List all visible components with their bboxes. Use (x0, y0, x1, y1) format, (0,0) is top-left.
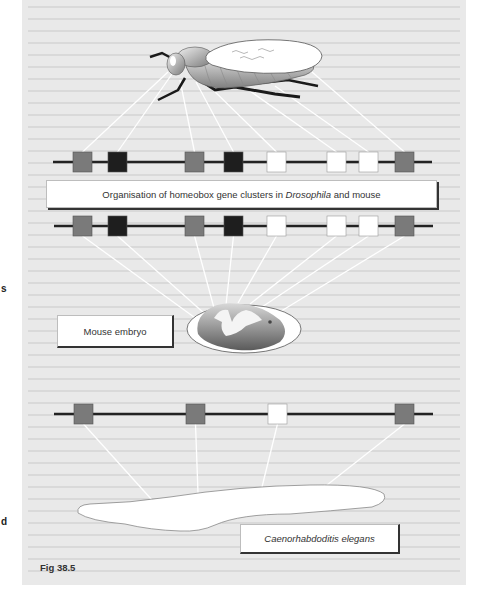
connector-line (250, 236, 337, 304)
gene-box-gray (185, 216, 204, 236)
connector-line (262, 236, 369, 307)
mouse-gene-cluster (54, 216, 433, 236)
c-elegans-label-box: Caenorhabdoditis elegans (240, 524, 400, 554)
gene-box-white (267, 152, 286, 172)
gene-box-gray (73, 152, 92, 172)
c-elegans-label: Caenorhabdoditis elegans (264, 533, 374, 544)
connector-line (196, 424, 199, 493)
gene-box-white (327, 152, 346, 172)
connector-line (238, 236, 277, 303)
gene-box-black (108, 216, 127, 236)
connector-line (84, 424, 153, 500)
gene-box-white (359, 152, 378, 172)
mouse-embryo-illustration (187, 303, 301, 353)
figure-caption: Fig 38.5 (40, 562, 75, 573)
gene-box-white (267, 216, 286, 236)
drosophila-gene-cluster (53, 152, 432, 172)
connector-line (312, 72, 405, 152)
gene-box-white (268, 404, 287, 424)
connector-line (118, 74, 173, 152)
homeobox-diagram (0, 0, 489, 592)
connector-line (195, 236, 215, 308)
connector-line (278, 236, 405, 313)
diagram-title-box: Organisation of homeobox gene clusters i… (46, 180, 437, 208)
mouse-embryo-label: Mouse embryo (84, 326, 147, 337)
c-elegans-gene-cluster (54, 404, 433, 424)
mouse-embryo-label-box: Mouse embryo (57, 315, 174, 348)
fly-wing (206, 40, 322, 74)
connector-line (83, 236, 199, 320)
connector-line (196, 82, 234, 152)
gene-box-gray (185, 152, 204, 172)
gene-box-gray (395, 152, 414, 172)
drosophila-fly-illustration (150, 40, 322, 100)
gene-box-gray (186, 404, 205, 424)
gene-box-gray (73, 216, 92, 236)
embryo-eye (268, 320, 272, 324)
fly-head (167, 53, 185, 75)
gene-box-gray (395, 404, 414, 424)
gene-box-black (108, 152, 127, 172)
diagram-title: Organisation of homeobox gene clusters i… (102, 189, 380, 200)
connector-line (118, 236, 206, 314)
gene-box-black (224, 216, 243, 236)
gene-box-gray (395, 216, 414, 236)
gene-box-black (224, 152, 243, 172)
connector-line (262, 424, 278, 487)
connector-line (180, 80, 195, 152)
gene-box-white (327, 216, 346, 236)
connector-line (327, 424, 405, 485)
fly-eye (170, 56, 176, 66)
gene-box-white (359, 216, 378, 236)
connector-line (226, 236, 234, 305)
gene-box-gray (74, 404, 93, 424)
